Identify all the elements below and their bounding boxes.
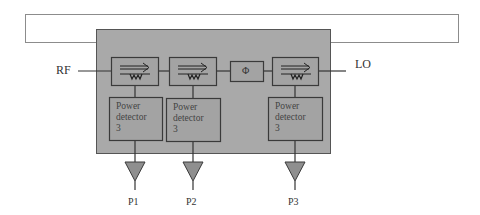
coupler-2 — [170, 58, 217, 86]
amplifier-3-icon — [285, 162, 305, 181]
power-detector-1-label: Power detector 3 — [116, 101, 147, 134]
diagram-canvas — [0, 0, 480, 215]
output-p3-label: P3 — [288, 197, 299, 207]
rf-port-label: RF — [56, 64, 71, 76]
coupler-3 — [273, 58, 319, 86]
phase-shifter-symbol: Φ — [242, 66, 249, 76]
output-p2-label: P2 — [186, 197, 197, 207]
amplifier-2-icon — [183, 162, 203, 181]
power-detector-2-label: Power detector 3 — [173, 102, 204, 135]
output-p1-label: P1 — [128, 197, 139, 207]
power-detector-3-label: Power detector 3 — [275, 101, 306, 134]
amplifier-1-icon — [125, 162, 145, 181]
lo-port-label: LO — [355, 58, 371, 70]
coupler-1 — [112, 58, 159, 86]
